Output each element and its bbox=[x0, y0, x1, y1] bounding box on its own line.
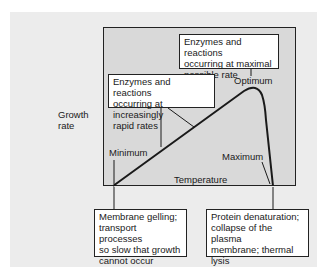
maximum-box-line: lysis bbox=[211, 255, 304, 266]
optimum-annotation-box: Enzymes and reactions occurring at maxim… bbox=[179, 34, 279, 69]
optimum-label: Optimum bbox=[234, 75, 273, 86]
maximum-box-line: collapse of the plasma bbox=[211, 222, 304, 244]
y-axis-label-line: Growth bbox=[58, 109, 89, 120]
rising-box-line: Enzymes and reactions bbox=[113, 76, 210, 98]
x-axis-label: Temperature bbox=[174, 174, 227, 185]
minimum-box-line: so slow that growth bbox=[99, 244, 182, 255]
optimum-box-line: occurring at maximal bbox=[184, 58, 274, 69]
optimum-box-line: Enzymes and reactions bbox=[184, 36, 274, 58]
minimum-label: Minimum bbox=[109, 147, 148, 158]
rising-box-line: rapid rates bbox=[113, 120, 210, 131]
minimum-box-line: cannot occur bbox=[99, 255, 182, 266]
maximum-annotation-box: Protein denaturation; collapse of the pl… bbox=[206, 209, 309, 257]
maximum-box-line: Protein denaturation; bbox=[211, 211, 304, 222]
y-axis-label: Growth rate bbox=[58, 109, 89, 131]
rising-annotation-box: Enzymes and reactions occurring at incre… bbox=[108, 74, 215, 108]
maximum-leader-line bbox=[262, 162, 270, 184]
minimum-annotation-box: Membrane gelling; transport processes so… bbox=[94, 209, 187, 257]
maximum-box-line: membrane; thermal bbox=[211, 244, 304, 255]
rising-box-line: occurring at increasingly bbox=[113, 98, 210, 120]
minimum-box-line: transport processes bbox=[99, 222, 182, 244]
maximum-label: Maximum bbox=[222, 151, 263, 162]
y-axis-label-line: rate bbox=[58, 120, 89, 131]
minimum-box-line: Membrane gelling; bbox=[99, 211, 182, 222]
